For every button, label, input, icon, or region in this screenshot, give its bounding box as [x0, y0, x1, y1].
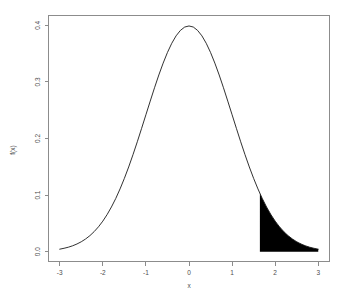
x-tick-label: 3: [316, 269, 320, 276]
y-tick-label: 0.1: [34, 190, 41, 199]
x-tick-label: 0: [187, 269, 191, 276]
x-tick-label: -2: [100, 269, 106, 276]
x-tick-label: 1: [230, 269, 234, 276]
x-tick-label: -3: [57, 269, 63, 276]
plot-canvas: -3-2-10123 0.00.10.20.30.4 x f(x): [0, 0, 344, 301]
plot-background: [0, 0, 344, 301]
x-tick-label: 2: [273, 269, 277, 276]
y-tick-label: 0.3: [34, 77, 41, 86]
y-tick-label: 0.2: [34, 134, 41, 143]
normal-density-plot: -3-2-10123 0.00.10.20.30.4 x f(x): [0, 0, 344, 301]
y-tick-label: 0.0: [34, 247, 41, 256]
y-axis-title: f(x): [9, 145, 17, 154]
y-tick-label: 0.4: [34, 20, 41, 29]
x-tick-label: -1: [143, 269, 149, 276]
